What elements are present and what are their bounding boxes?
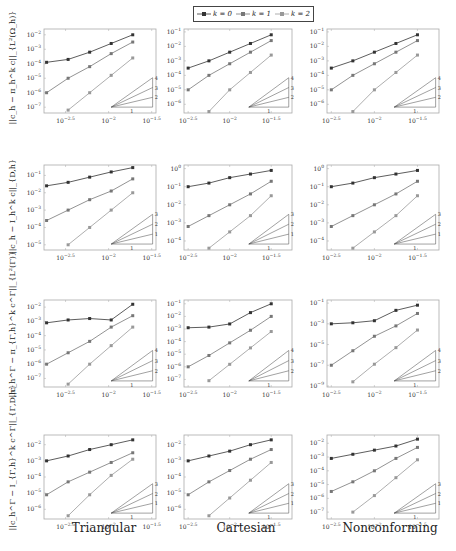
svg-text:2: 2 bbox=[291, 491, 294, 497]
svg-text:4: 4 bbox=[438, 347, 441, 353]
svg-text:10−7: 10−7 bbox=[167, 374, 181, 382]
svg-text:10−1: 10−1 bbox=[27, 170, 41, 178]
svg-text:10−5: 10−5 bbox=[310, 340, 324, 348]
slope-triangle: 4321 bbox=[111, 347, 158, 387]
svg-text:10−2: 10−2 bbox=[310, 200, 324, 208]
svg-text:1: 1 bbox=[130, 108, 133, 114]
svg-text:3: 3 bbox=[438, 358, 441, 364]
row-label-0: ||c_h − π_h^k c||_{L²(Ω_h)} bbox=[8, 15, 17, 125]
svg-text:10−6: 10−6 bbox=[27, 359, 41, 367]
svg-text:1: 1 bbox=[130, 382, 133, 388]
svg-text:1: 1 bbox=[291, 231, 294, 237]
slope-triangle: 3211 bbox=[394, 211, 441, 251]
svg-text:10−3: 10−3 bbox=[310, 218, 324, 226]
svg-text:10−1: 10−1 bbox=[310, 182, 324, 190]
plot-r2-cartesian: 10−2.510−210−1.510−110−210−310−410−510−6… bbox=[154, 295, 298, 404]
svg-text:10−1: 10−1 bbox=[310, 27, 324, 35]
svg-text:10−3: 10−3 bbox=[310, 56, 324, 64]
column-label-triangular: Triangular bbox=[34, 521, 174, 535]
svg-text:10−2: 10−2 bbox=[367, 253, 381, 261]
svg-text:1: 1 bbox=[413, 245, 416, 251]
svg-text:10−7: 10−7 bbox=[27, 373, 41, 381]
plot-r1-triangular: 10−2.510−210−1.510−110−210−310−410−53211 bbox=[14, 160, 162, 267]
svg-text:1: 1 bbox=[438, 500, 441, 506]
svg-text:10−1.5: 10−1.5 bbox=[408, 253, 427, 261]
svg-text:10−1.5: 10−1.5 bbox=[262, 116, 281, 124]
svg-text:10−4: 10−4 bbox=[167, 337, 181, 345]
slope-triangle: 3211 bbox=[111, 211, 158, 251]
svg-text:10−3: 10−3 bbox=[167, 324, 181, 332]
plot-r0-cartesian: 10−2.510−210−1.510−110−210−310−410−510−6… bbox=[154, 24, 298, 130]
svg-text:10−2.5: 10−2.5 bbox=[322, 253, 341, 261]
row-label-2: ||c_h^Γ − π_{Γ,h}^k c^Γ||_{L²(Γ)} bbox=[8, 287, 17, 397]
svg-text:10−2: 10−2 bbox=[27, 302, 41, 310]
svg-text:2: 2 bbox=[438, 221, 441, 227]
slope-triangle: 3211 bbox=[394, 481, 441, 520]
svg-text:10−2.5: 10−2.5 bbox=[56, 253, 75, 261]
svg-text:3: 3 bbox=[291, 85, 294, 91]
svg-text:3: 3 bbox=[438, 211, 441, 217]
svg-text:10−5: 10−5 bbox=[27, 240, 41, 248]
legend: k = 0k = 1k = 2 bbox=[193, 6, 314, 22]
svg-text:10−2: 10−2 bbox=[27, 30, 41, 38]
svg-text:10−1: 10−1 bbox=[167, 27, 181, 35]
legend-entry-k1: k = 1 bbox=[236, 10, 271, 18]
svg-text:10−2.5: 10−2.5 bbox=[56, 390, 75, 398]
svg-text:10−7: 10−7 bbox=[310, 507, 324, 515]
svg-text:2: 2 bbox=[438, 491, 441, 497]
svg-text:10−3: 10−3 bbox=[310, 319, 324, 327]
svg-text:10−2: 10−2 bbox=[223, 390, 237, 398]
svg-text:1: 1 bbox=[267, 245, 270, 251]
slope-triangle: 4321 bbox=[111, 75, 158, 114]
plot-r2-triangular: 10−2.510−210−1.510−210−310−410−510−610−7… bbox=[14, 295, 162, 404]
svg-text:10−3: 10−3 bbox=[310, 452, 324, 460]
svg-text:1: 1 bbox=[438, 231, 441, 237]
svg-text:10−2: 10−2 bbox=[223, 116, 237, 124]
svg-text:10−4: 10−4 bbox=[167, 70, 181, 78]
svg-text:4: 4 bbox=[291, 347, 294, 353]
svg-text:10−5: 10−5 bbox=[167, 349, 181, 357]
svg-text:1: 1 bbox=[413, 514, 416, 520]
legend-entry-k2: k = 2 bbox=[275, 10, 310, 18]
svg-text:10−2: 10−2 bbox=[101, 253, 115, 261]
svg-text:1: 1 bbox=[291, 500, 294, 506]
svg-text:10−4: 10−4 bbox=[167, 236, 181, 244]
plot-r0-triangular: 10−2.510−210−1.510−210−310−410−510−610−7… bbox=[14, 24, 162, 130]
plot-r0-nonconforming: 10−2.510−210−1.510−110−210−310−410−510−6… bbox=[297, 24, 445, 130]
svg-text:10−3: 10−3 bbox=[167, 56, 181, 64]
svg-text:10−5: 10−5 bbox=[167, 488, 181, 496]
column-label-cartesian: Cartesian bbox=[176, 521, 316, 535]
svg-text:10−5: 10−5 bbox=[310, 480, 324, 488]
svg-text:10−6: 10−6 bbox=[310, 493, 324, 501]
svg-text:10−2: 10−2 bbox=[27, 188, 41, 196]
slope-triangle: 3211 bbox=[249, 481, 294, 520]
svg-text:2: 2 bbox=[438, 368, 441, 374]
svg-text:10−2.5: 10−2.5 bbox=[322, 116, 341, 124]
svg-text:10−2: 10−2 bbox=[101, 116, 115, 124]
svg-text:1: 1 bbox=[267, 108, 270, 114]
svg-text:10−1.5: 10−1.5 bbox=[262, 390, 281, 398]
svg-text:2: 2 bbox=[438, 94, 441, 100]
svg-text:3: 3 bbox=[291, 211, 294, 217]
svg-text:10−6: 10−6 bbox=[167, 504, 181, 512]
svg-text:10−6: 10−6 bbox=[27, 88, 41, 96]
svg-text:10−2: 10−2 bbox=[27, 440, 41, 448]
svg-text:10−2: 10−2 bbox=[223, 253, 237, 261]
svg-text:10−1: 10−1 bbox=[310, 298, 324, 306]
svg-text:10−2: 10−2 bbox=[367, 390, 381, 398]
slope-triangle: 3211 bbox=[111, 481, 158, 520]
svg-text:10−2: 10−2 bbox=[167, 440, 181, 448]
svg-text:10−4: 10−4 bbox=[27, 222, 41, 230]
plot-r1-nonconforming: 10−2.510−210−1.510010−110−210−310−43211 bbox=[297, 160, 445, 267]
svg-text:10−3: 10−3 bbox=[27, 44, 41, 52]
svg-text:10−1: 10−1 bbox=[167, 299, 181, 307]
svg-text:10−6: 10−6 bbox=[27, 504, 41, 512]
svg-text:10−5: 10−5 bbox=[27, 73, 41, 81]
svg-text:3: 3 bbox=[291, 481, 294, 487]
svg-text:10−2: 10−2 bbox=[310, 438, 324, 446]
plot-r1-cartesian: 10−2.510−210−1.510010−110−210−310−43211 bbox=[154, 160, 298, 267]
svg-text:10−1.5: 10−1.5 bbox=[262, 253, 281, 261]
svg-text:1: 1 bbox=[413, 108, 416, 114]
svg-text:4: 4 bbox=[438, 75, 441, 81]
svg-text:10−6: 10−6 bbox=[167, 362, 181, 370]
